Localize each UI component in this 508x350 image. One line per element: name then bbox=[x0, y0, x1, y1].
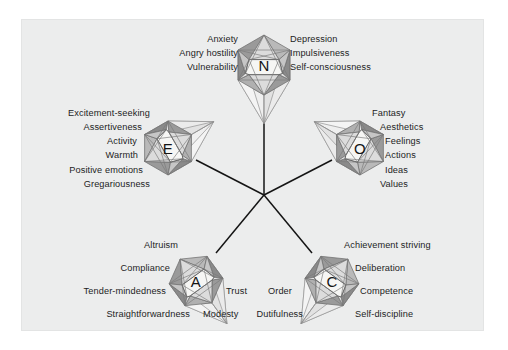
label-n-anxiety: Anxiety bbox=[110, 33, 238, 45]
spoke-e bbox=[196, 160, 264, 195]
spoke-a bbox=[216, 195, 264, 253]
label-a-altruism: Altruism bbox=[40, 239, 178, 251]
label-o-feelings: Feelings bbox=[385, 135, 421, 147]
label-e-excitement-seeking: Excitement-seeking bbox=[20, 107, 150, 119]
label-e-gregariousness: Gregariousness bbox=[10, 178, 150, 190]
node-letter-n: N bbox=[255, 58, 273, 73]
label-c-self-discipline: Self-discipline bbox=[355, 308, 413, 320]
label-n-depression: Depression bbox=[290, 33, 337, 45]
label-e-positive-emotions: Positive emotions bbox=[10, 164, 143, 176]
node-n[interactable] bbox=[238, 35, 290, 124]
label-c-dutifulness: Dutifulness bbox=[190, 308, 303, 320]
spoke-c bbox=[264, 195, 312, 253]
label-c-achievement-striving: Achievement striving bbox=[344, 239, 431, 251]
label-a-compliance: Compliance bbox=[30, 262, 170, 274]
node-letter-e: E bbox=[159, 141, 177, 156]
label-a-straightforwardness: Straightforwardness bbox=[20, 308, 190, 320]
label-o-ideas: Ideas bbox=[385, 164, 408, 176]
label-o-fantasy: Fantasy bbox=[372, 107, 405, 119]
label-o-aesthetics: Aesthetics bbox=[380, 121, 423, 133]
figure-root: N E O A C Anxiety Angry hostility Vulner… bbox=[0, 0, 508, 350]
label-o-values: Values bbox=[380, 178, 408, 190]
node-c[interactable] bbox=[282, 245, 367, 337]
label-c-order: Order bbox=[200, 285, 292, 297]
label-n-impulsiveness: Impulsiveness bbox=[290, 47, 350, 59]
label-c-competence: Competence bbox=[360, 285, 413, 297]
label-n-angry-hostility: Angry hostility bbox=[110, 47, 238, 59]
label-e-warmth: Warmth bbox=[16, 149, 138, 161]
label-c-deliberation: Deliberation bbox=[355, 262, 405, 274]
spokes bbox=[196, 118, 332, 253]
label-e-assertiveness: Assertiveness bbox=[16, 121, 142, 133]
node-letter-c: C bbox=[323, 274, 341, 289]
label-a-tender-mindedness: Tender-mindedness bbox=[20, 285, 166, 297]
label-n-vulnerability: Vulnerability bbox=[110, 61, 238, 73]
spoke-o bbox=[264, 160, 332, 195]
label-e-activity: Activity bbox=[16, 135, 137, 147]
node-letter-o: O bbox=[351, 141, 369, 156]
label-n-self-consciousness: Self-consciousness bbox=[290, 61, 371, 73]
label-o-actions: Actions bbox=[385, 149, 416, 161]
